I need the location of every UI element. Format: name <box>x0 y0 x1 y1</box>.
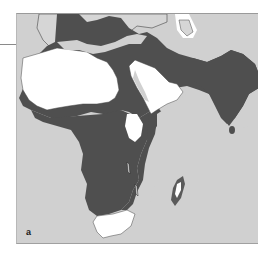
panel-label: a <box>26 227 31 237</box>
range-map <box>17 14 258 243</box>
indian-ocean <box>147 94 258 243</box>
sri-lanka <box>229 126 235 134</box>
leader-line <box>0 44 16 45</box>
map-panel: a <box>16 13 258 244</box>
